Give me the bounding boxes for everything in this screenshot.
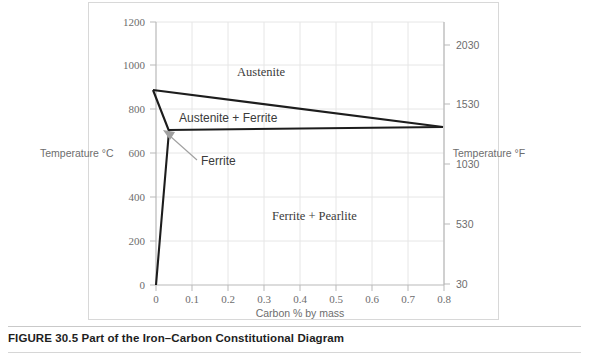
y-axis-left-title: Temperature °C xyxy=(40,147,114,159)
iron-carbon-phase-diagram: 1200 1000 800 600 400 200 0 2030 1530 10… xyxy=(0,0,589,330)
ytick2-label-1530: 1530 xyxy=(456,98,480,110)
ytick-label-800: 800 xyxy=(129,103,146,115)
left-axis-ticks xyxy=(150,22,156,285)
gridlines xyxy=(156,22,444,285)
ytick-label-400: 400 xyxy=(129,191,146,203)
ytick2-label-530: 530 xyxy=(456,218,474,230)
ytick2-label-2030: 2030 xyxy=(456,39,480,51)
caption-rule-top xyxy=(8,326,581,327)
xtick-label-0.6: 0.6 xyxy=(365,293,379,305)
ytick-label-200: 200 xyxy=(129,235,146,247)
label-austenite-ferrite: Austenite + Ferrite xyxy=(179,111,278,125)
figure-caption-block: FIGURE 30.5 Part of the Iron–Carbon Cons… xyxy=(0,326,589,359)
xtick-label-0: 0 xyxy=(153,293,159,305)
ytick-label-0: 0 xyxy=(140,279,146,291)
label-ferrite-pearlite: Ferrite + Pearlite xyxy=(272,209,357,223)
xtick-label-0.2: 0.2 xyxy=(221,293,235,305)
ytick2-label-30: 30 xyxy=(456,278,468,290)
left-tick-labels: 1200 1000 800 600 400 200 0 xyxy=(123,16,146,291)
y-axis-right-title: Temperature °F xyxy=(453,147,525,159)
figure-caption-text: FIGURE 30.5 Part of the Iron–Carbon Cons… xyxy=(8,332,344,344)
bottom-axis-ticks xyxy=(156,285,444,291)
figure-page: 1200 1000 800 600 400 200 0 2030 1530 10… xyxy=(0,0,589,359)
x-axis-title: Carbon % by mass xyxy=(256,307,345,319)
xtick-label-0.4: 0.4 xyxy=(293,293,307,305)
ytick-label-1200: 1200 xyxy=(123,16,146,28)
xtick-label-0.5: 0.5 xyxy=(329,293,343,305)
a1-eutectoid-line xyxy=(168,127,443,130)
xtick-label-0.8: 0.8 xyxy=(437,293,451,305)
xtick-label-0.7: 0.7 xyxy=(401,293,415,305)
ytick2-label-1030: 1030 xyxy=(456,158,480,170)
bottom-tick-labels: 0 0.1 0.2 0.3 0.4 0.5 0.6 0.7 0.8 xyxy=(153,293,451,305)
label-austenite: Austenite xyxy=(237,65,285,79)
caption-rule-bottom xyxy=(8,352,581,353)
ytick-label-1000: 1000 xyxy=(123,59,146,71)
leader-line-ferrite xyxy=(170,136,197,160)
ytick-label-600: 600 xyxy=(129,147,146,159)
xtick-label-0.3: 0.3 xyxy=(257,293,271,305)
right-axis-ticks xyxy=(444,45,450,284)
label-ferrite: Ferrite xyxy=(201,154,236,168)
xtick-label-0.1: 0.1 xyxy=(185,293,199,305)
right-tick-labels: 2030 1530 1030 530 30 xyxy=(456,39,480,290)
